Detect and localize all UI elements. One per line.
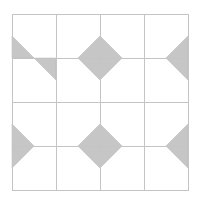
grid-lines: [12, 14, 189, 191]
top-left-upper-triangle: [12, 36, 34, 58]
tiling-diagram: [0, 0, 199, 203]
top-left-lower-triangle: [34, 58, 56, 80]
